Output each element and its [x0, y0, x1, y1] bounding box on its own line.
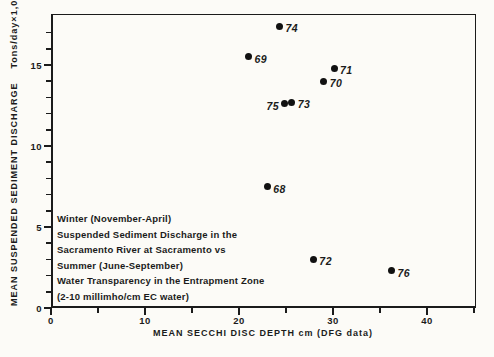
x-axis-minor-tick — [191, 308, 193, 313]
point-label-69: 69 — [254, 53, 267, 65]
y-axis-minor-tick — [46, 275, 51, 277]
annotation-block: Winter (November-April)Suspended Sedimen… — [57, 211, 264, 305]
x-axis-minor-tick — [379, 308, 381, 313]
x-axis-tick-label: 40 — [415, 315, 439, 326]
y-axis-major-tick — [44, 145, 51, 147]
point-label-74: 74 — [285, 22, 298, 34]
point-label-72: 72 — [319, 255, 332, 267]
annotation-line: Winter (November-April) — [57, 211, 264, 227]
scatter-point-68 — [264, 183, 271, 190]
x-axis-major-tick — [426, 308, 428, 315]
scatter-point-71 — [331, 65, 338, 72]
y-axis-major-tick — [44, 64, 51, 66]
scatter-point-72 — [310, 256, 317, 263]
y-axis-minor-tick — [46, 194, 51, 196]
x-axis-tick-label: 10 — [133, 315, 157, 326]
y-axis-minor-tick — [46, 80, 51, 82]
y-axis-minor-tick — [46, 210, 51, 212]
y-axis-tick-label: 0 — [20, 303, 42, 314]
x-axis-minor-tick — [97, 308, 99, 313]
y-axis-minor-tick — [46, 97, 51, 99]
y-axis-minor-tick — [46, 291, 51, 293]
y-axis-major-tick — [44, 226, 51, 228]
x-axis-major-tick — [332, 308, 334, 315]
y-axis-minor-tick — [46, 48, 51, 50]
y-axis-title-text: MEAN SUSPENDED SEDIMENT DISCHARGE — [9, 82, 19, 306]
y-axis-minor-tick — [46, 32, 51, 34]
y-axis-minor-tick — [46, 242, 51, 244]
y-axis-major-tick — [44, 307, 51, 309]
point-label-73: 73 — [298, 98, 311, 110]
point-label-75: 75 — [267, 100, 280, 112]
y-axis-tick-label: 15 — [20, 60, 42, 71]
y-axis-tick-label: 5 — [20, 222, 42, 233]
y-axis-minor-tick — [46, 161, 51, 163]
annotation-line: Sacramento River at Sacramento vs — [57, 242, 264, 258]
annotation-line: (2-10 millimho/cm EC water) — [57, 289, 264, 305]
point-label-76: 76 — [397, 267, 410, 279]
x-axis-tick-label: 30 — [321, 315, 345, 326]
scatter-point-70 — [320, 78, 327, 85]
point-label-71: 71 — [340, 64, 353, 76]
x-axis-major-tick — [144, 308, 146, 315]
x-axis-minor-tick — [285, 308, 287, 313]
x-axis-major-tick — [50, 308, 52, 315]
x-axis-minor-tick — [473, 308, 475, 313]
y-axis-tick-label: 10 — [20, 141, 42, 152]
y-axis-minor-tick — [46, 178, 51, 180]
annotation-line: Suspended Sediment Discharge in the — [57, 227, 264, 243]
y-axis-minor-tick — [46, 113, 51, 115]
annotation-line: Summer (June-September) — [57, 258, 264, 274]
point-label-68: 68 — [273, 183, 286, 195]
y-axis-units-text: Tons/day×1,000 — [9, 0, 19, 68]
scatter-chart-figure: MEAN SECCHI DISC DEPTH cm (DFG data) MEA… — [0, 0, 494, 357]
scatter-point-73 — [288, 99, 295, 106]
annotation-line: Water Transparency in the Entrapment Zon… — [57, 273, 264, 289]
x-axis-tick-label: 0 — [39, 315, 63, 326]
y-axis-minor-tick — [46, 259, 51, 261]
scatter-point-74 — [276, 23, 283, 30]
x-axis-title: MEAN SECCHI DISC DEPTH cm (DFG data) — [113, 328, 413, 338]
y-axis-minor-tick — [46, 129, 51, 131]
y-axis-title: MEAN SUSPENDED SEDIMENT DISCHARGETons/da… — [9, 14, 21, 306]
x-axis-major-tick — [238, 308, 240, 315]
point-label-70: 70 — [330, 77, 343, 89]
x-axis-tick-label: 20 — [227, 315, 251, 326]
